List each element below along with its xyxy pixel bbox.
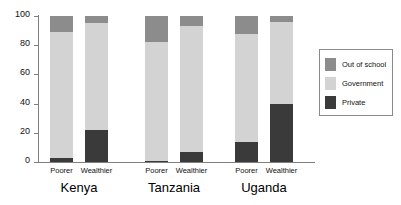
y-tick-0: 0 [0, 162, 38, 163]
legend-label: Private [342, 98, 365, 107]
bar-segment-out-of-school [235, 16, 258, 34]
y-tick-label: 80 [20, 39, 30, 48]
y-tick-80: 80 [0, 45, 38, 46]
bar-segment-government [50, 32, 73, 158]
y-tick-label: 20 [20, 127, 30, 136]
y-tick-mark [34, 45, 38, 46]
y-tick-label: 0 [25, 156, 30, 165]
y-tick-label: 40 [20, 98, 30, 107]
bar-segment-government [85, 23, 108, 130]
y-tick-mark [34, 16, 38, 17]
bar-tanzania-wealthier [180, 16, 203, 162]
group-label-uganda: Uganda [219, 180, 309, 196]
bar-kenya-wealthier [85, 16, 108, 162]
bar-segment-private [270, 104, 293, 162]
legend-label: Out of school [342, 60, 386, 69]
y-tick-40: 40 [0, 104, 38, 105]
legend-item-government: Government [325, 76, 383, 90]
y-tick-label: 60 [20, 68, 30, 77]
y-tick-mark [34, 162, 38, 163]
bar-uganda-wealthier [270, 16, 293, 162]
legend-swatch [325, 58, 336, 71]
y-tick-100: 100 [0, 16, 38, 17]
bar-segment-out-of-school [270, 16, 293, 22]
y-tick-label: 100 [15, 10, 30, 19]
bar-segment-private [85, 130, 108, 162]
bar-segment-out-of-school [145, 16, 168, 42]
stacked-bar-chart: 100806040200 PoorerWealthierPoorerWealth… [0, 0, 401, 205]
y-tick-mark [34, 133, 38, 134]
bar-kenya-poorer [50, 16, 73, 162]
legend-label: Government [342, 79, 383, 88]
bar-segment-out-of-school [180, 16, 203, 26]
bar-uganda-poorer [235, 16, 258, 162]
bar-segment-government [180, 26, 203, 152]
plot-area [38, 16, 310, 162]
x-axis-line [38, 162, 315, 163]
group-label-tanzania: Tanzania [129, 180, 219, 196]
bar-segment-government [270, 22, 293, 104]
bar-segment-private [235, 142, 258, 162]
legend: Out of schoolGovernmentPrivate [319, 49, 393, 116]
bar-segment-government [235, 34, 258, 142]
y-tick-20: 20 [0, 133, 38, 134]
bar-label-wealthier-1: Wealthier [73, 166, 120, 175]
legend-swatch [325, 96, 336, 109]
legend-item-private: Private [325, 95, 365, 109]
bar-label-wealthier-5: Wealthier [258, 166, 305, 175]
bar-segment-private [50, 158, 73, 162]
legend-item-out-of-school: Out of school [325, 57, 386, 71]
bar-tanzania-poorer [145, 16, 168, 162]
bar-segment-private [145, 161, 168, 162]
bar-segment-private [180, 152, 203, 162]
y-tick-60: 60 [0, 74, 38, 75]
group-label-kenya: Kenya [34, 180, 124, 196]
y-tick-mark [34, 74, 38, 75]
bar-label-wealthier-3: Wealthier [168, 166, 215, 175]
bar-segment-government [145, 42, 168, 160]
bar-segment-out-of-school [50, 16, 73, 32]
bar-segment-out-of-school [85, 16, 108, 23]
y-tick-mark [34, 104, 38, 105]
legend-swatch [325, 77, 336, 90]
